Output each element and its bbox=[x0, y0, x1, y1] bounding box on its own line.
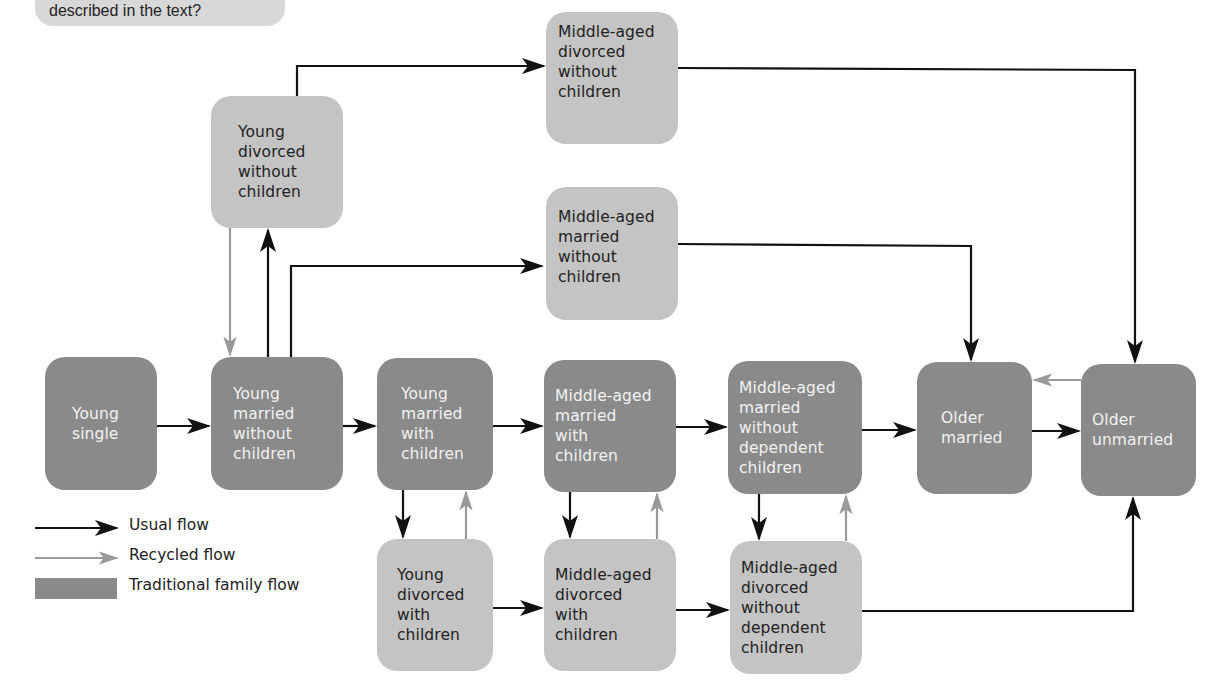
node-young-divorced-with-children: Young divorced with children bbox=[377, 539, 493, 671]
arrow-mmnc-to-older-married bbox=[678, 244, 971, 360]
node-young-divorced-without-children: Young divorced without children bbox=[211, 96, 343, 228]
arrow-mdnd-to-older-unmarried bbox=[862, 498, 1133, 611]
node-middle-aged-married-without-dependent-children: Middle-aged married without dependent ch… bbox=[728, 361, 862, 494]
arrow-ymnc-to-mmnc bbox=[291, 266, 542, 357]
arrow-ydnc-to-mdnc bbox=[297, 66, 544, 96]
node-young-married-without-children: Young married without children bbox=[211, 357, 343, 490]
arrow-mdnc-to-older-unmarried bbox=[678, 68, 1135, 362]
node-older-unmarried: Older unmarried bbox=[1081, 364, 1196, 496]
legend-usual-label: Usual flow bbox=[129, 516, 209, 534]
node-middle-aged-married-without-children: Middle-aged married without children bbox=[546, 187, 678, 320]
node-middle-aged-divorced-without-dependent-children: Middle-aged divorced without dependent c… bbox=[730, 541, 862, 674]
legend-recycled-label: Recycled flow bbox=[129, 546, 235, 564]
traditional-swatch bbox=[35, 578, 117, 599]
node-young-single: Young single bbox=[45, 357, 157, 490]
node-young-married-with-children: Young married with children bbox=[377, 358, 493, 490]
legend-traditional-label: Traditional family flow bbox=[129, 576, 299, 594]
node-older-married: Older married bbox=[917, 362, 1032, 494]
node-middle-aged-divorced-with-children: Middle-aged divorced with children bbox=[544, 539, 676, 671]
node-middle-aged-married-with-children: Middle-aged married with children bbox=[544, 360, 676, 492]
node-middle-aged-divorced-without-children: Middle-aged divorced without children bbox=[546, 12, 678, 144]
